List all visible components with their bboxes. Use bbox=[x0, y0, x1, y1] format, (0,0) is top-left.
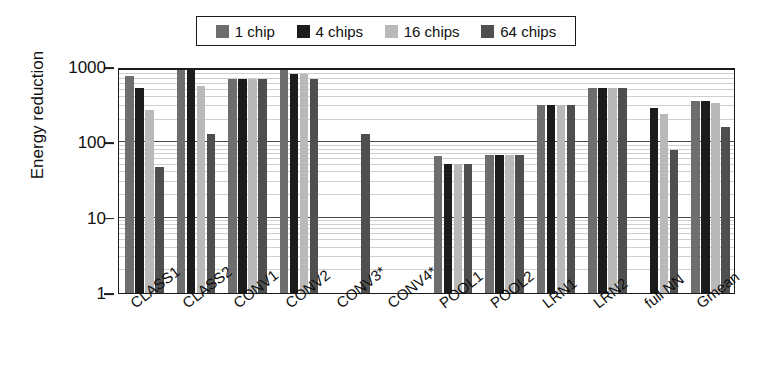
bar-group bbox=[530, 70, 581, 293]
bar bbox=[280, 70, 289, 293]
bar bbox=[618, 88, 627, 293]
bar bbox=[721, 127, 730, 293]
bar bbox=[701, 101, 710, 293]
plot-area bbox=[118, 68, 735, 294]
bar bbox=[310, 79, 319, 293]
y-axis-tick-mark bbox=[104, 293, 114, 295]
bar bbox=[135, 88, 144, 293]
bar bbox=[557, 105, 566, 293]
legend-swatch-icon bbox=[385, 25, 398, 38]
bar bbox=[454, 164, 463, 293]
bar-group bbox=[428, 70, 479, 293]
legend-swatch-icon bbox=[481, 25, 494, 38]
bar bbox=[567, 105, 576, 293]
bar bbox=[660, 114, 669, 293]
bar-group bbox=[325, 70, 376, 293]
bar bbox=[598, 88, 607, 293]
bar-group bbox=[273, 70, 324, 293]
chart-figure: 1 chip4 chips16 chips64 chips 1000100101… bbox=[0, 0, 768, 386]
bar bbox=[547, 105, 556, 293]
bar bbox=[711, 103, 720, 293]
bar-group bbox=[582, 70, 633, 293]
chart-legend: 1 chip4 chips16 chips64 chips bbox=[196, 16, 576, 46]
bar-group bbox=[376, 70, 427, 293]
bar bbox=[444, 164, 453, 293]
y-axis-tick-mark bbox=[104, 67, 114, 69]
bar-group bbox=[119, 70, 170, 293]
bar bbox=[290, 74, 299, 294]
legend-item: 4 chips bbox=[297, 24, 364, 39]
legend-label: 4 chips bbox=[316, 24, 364, 39]
x-axis: CLASS1CLASS2CONV1CONV2CONV3*CONV4*POOL1P… bbox=[118, 294, 735, 386]
y-axis-tick-label: 1000 bbox=[68, 58, 106, 78]
y-axis-title: Energy reduction bbox=[28, 15, 48, 215]
bar-group bbox=[479, 70, 530, 293]
y-axis-tick-label: 100 bbox=[78, 133, 106, 153]
bar bbox=[650, 108, 659, 294]
bar bbox=[505, 155, 514, 293]
y-axis-tick-mark bbox=[104, 218, 114, 220]
legend-item: 1 chip bbox=[216, 24, 275, 39]
bar bbox=[177, 68, 186, 293]
legend-item: 16 chips bbox=[385, 24, 460, 39]
legend-item: 64 chips bbox=[481, 24, 556, 39]
bar-group bbox=[222, 70, 273, 293]
legend-label: 64 chips bbox=[500, 24, 556, 39]
bar-group bbox=[685, 70, 735, 293]
bar bbox=[228, 79, 237, 293]
bar bbox=[537, 105, 546, 293]
bar bbox=[495, 155, 504, 293]
bar bbox=[258, 79, 267, 293]
bar bbox=[691, 101, 700, 293]
legend-swatch-icon bbox=[297, 25, 310, 38]
bar-group bbox=[633, 70, 684, 293]
bar-group bbox=[170, 70, 221, 293]
bar bbox=[145, 110, 154, 293]
legend-swatch-icon bbox=[216, 25, 229, 38]
bar bbox=[187, 68, 196, 293]
y-axis-tick-mark bbox=[104, 142, 114, 144]
bar bbox=[125, 76, 134, 293]
legend-label: 16 chips bbox=[404, 24, 460, 39]
bar bbox=[248, 79, 257, 293]
legend-label: 1 chip bbox=[235, 24, 275, 39]
bar bbox=[588, 88, 597, 293]
bar bbox=[197, 86, 206, 293]
y-axis: 1000100101 bbox=[52, 68, 114, 294]
bar bbox=[238, 79, 247, 293]
bar bbox=[300, 74, 309, 294]
bar bbox=[485, 155, 494, 293]
bar bbox=[608, 88, 617, 293]
